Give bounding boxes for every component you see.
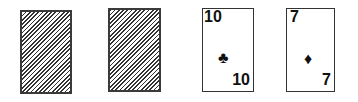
card-rank-top: 7 <box>290 9 299 25</box>
card-rank-top: 10 <box>204 9 222 25</box>
card-rank-bottom: 7 <box>322 72 331 88</box>
card-rank-bottom: 10 <box>232 72 250 88</box>
diamond-icon: ♦ <box>304 51 312 67</box>
card-face-down-2[interactable] <box>108 8 161 92</box>
card-seven-of-diamonds[interactable]: 7 ♦ 7 <box>286 8 335 92</box>
card-face-down-1[interactable] <box>20 10 72 94</box>
clubs-icon: ♣ <box>218 50 229 66</box>
card-ten-of-clubs[interactable]: 10 ♣ 10 <box>202 8 254 92</box>
